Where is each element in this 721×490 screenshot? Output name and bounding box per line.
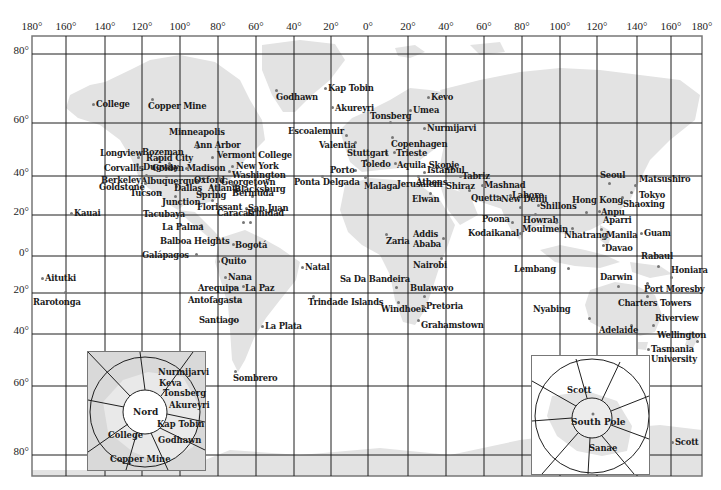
station-marker [217,260,220,263]
station-marker [331,106,334,109]
inset-station-label: Nurmijarvi [158,368,209,376]
station-label: Kauai [74,209,100,217]
station-marker [608,182,611,185]
station-label: Elwan [412,195,439,203]
station-label: Tasmania [651,345,694,353]
station-label: Nurmijarvi [427,124,476,132]
station-label: Scott [675,438,698,446]
station-marker [324,87,327,90]
station-label: Junction [162,198,200,206]
latitude-tick-label: 20° [14,205,29,217]
station-marker [647,348,650,351]
station-label: Trinidad [246,209,284,217]
station-label: Quetta [471,194,502,202]
station-label: Jerusalem [397,180,443,188]
station-label: Rapid City [146,154,193,162]
station-label: Bermuda [232,189,274,197]
station-marker [92,103,95,106]
station-label: Istanbul [427,166,465,174]
station-label: Tucson [130,189,162,197]
station-label: Davao [605,244,633,252]
latitude-tick-label: 60° [14,113,29,125]
longitude-tick-label: 40° [286,20,301,32]
station-label: Nana [228,273,252,281]
station-marker [139,166,142,169]
station-marker [224,276,227,279]
station-marker [600,228,603,231]
latitude-tick-label: 60° [14,376,29,388]
station-label: Bogotá [235,241,267,249]
station-label: Addis [413,230,438,238]
station-marker [585,211,588,214]
station-label: Kevo [431,93,453,101]
north-pole-inset: Nord NurmijarviKevaTonsbergAkureyriKap T… [87,351,206,471]
station-label: Stuttgart [347,149,389,157]
longitude-tick-label: 20° [400,20,415,32]
latitude-tick-label: 80° [14,44,29,56]
longitude-tick-label: 180° [692,20,713,32]
station-label: Escoalemuir [288,127,344,135]
inset-station-label: Scott [567,386,591,394]
station-label: Pretoria [426,302,463,310]
station-label: La Palma [162,223,204,231]
station-marker [427,96,430,99]
station-label: Copper Mine [148,102,206,110]
inset-station-label: Kap Tobin [157,420,204,428]
station-label: Sa Da Bandeira [340,275,410,283]
station-label: Tonsberg [370,112,412,120]
station-marker [364,176,367,179]
station-marker [617,285,620,288]
station-marker [670,276,673,279]
station-label: La Plata [265,322,302,330]
south-pole-inset: South Pole ScottSanae [531,355,650,475]
station-label: Wellington [657,331,706,339]
longitude-tick-label: 120° [587,20,608,32]
latitude-tick-label: 40° [14,324,29,336]
longitude-tick-label: 60° [248,20,263,32]
latitude-tick-label: 40° [14,166,29,178]
station-label: Toledo [361,160,391,168]
station-label: Rabaul [641,252,673,260]
longitude-tick-label: 160° [661,20,682,32]
longitude-tick-label: 100° [550,20,571,32]
station-label: Mashnad [484,181,525,189]
station-marker [640,232,643,235]
station-label: Golden Madison [152,164,225,172]
station-label: Aitutki [45,274,76,282]
station-marker [671,441,674,444]
station-marker [261,325,264,328]
station-marker [228,170,231,173]
inset-station-label: College [108,431,143,439]
station-marker [249,221,252,224]
station-label: Antofagasta [188,296,242,304]
station-label: Natal [305,263,330,271]
longitude-tick-label: 180° [22,20,43,32]
station-label: Seoul [600,171,625,179]
station-marker [242,221,245,224]
station-label: Manila [606,231,637,239]
latitude-tick-label: 80° [14,445,29,457]
station-marker [211,156,214,159]
station-label: Trindade Islands [308,298,383,306]
station-marker [395,286,398,289]
longitude-tick-label: 140° [627,20,648,32]
station-label: Umea [413,106,439,114]
station-label: University [651,355,697,363]
station-marker [423,295,426,298]
station-marker [417,319,420,322]
inset-station-label: Copper Mine [110,455,171,463]
station-marker [422,305,425,308]
station-label: Adelaide [599,326,638,334]
south-polar-projection [532,356,649,474]
station-marker [567,267,570,270]
longitude-tick-label: 40° [438,20,453,32]
longitude-tick-label: 140° [95,20,116,32]
station-label: Kap Tobin [328,84,374,92]
station-label: Bulawayo [410,284,453,292]
station-marker [519,206,522,209]
station-label: Riverview [655,314,699,322]
station-label: Ponta Delgada [294,178,360,186]
latitude-tick-label: 20° [14,283,29,295]
station-marker [511,221,514,224]
station-marker [588,317,591,320]
